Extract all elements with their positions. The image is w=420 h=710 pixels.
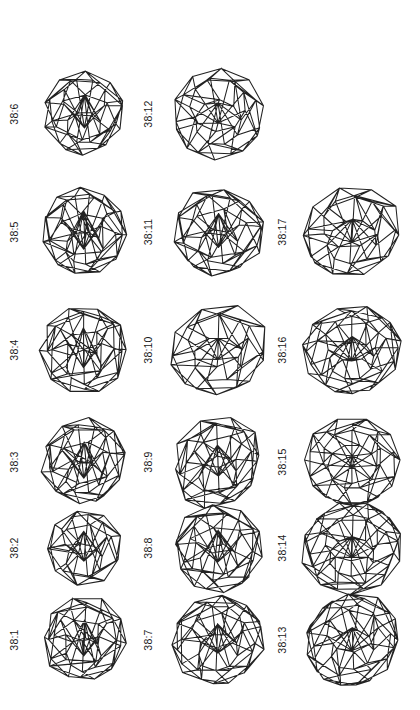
polyhedra-plate: 38:638:1238:538:1138:1738:438:1038:1638:… <box>0 0 420 710</box>
polyhedron-label: 38:15 <box>276 442 288 482</box>
polyhedron-label: 38:12 <box>142 94 154 134</box>
polyhedron-label: 38:5 <box>8 212 20 252</box>
polyhedron-label: 38:13 <box>276 620 288 660</box>
polyhedron-label: 38:16 <box>276 330 288 370</box>
polyhedron-label: 38:11 <box>142 212 154 252</box>
polyhedron-cell: 38:13 <box>282 570 400 710</box>
polyhedron-label: 38:6 <box>8 94 20 134</box>
polyhedron-label: 38:3 <box>8 442 20 482</box>
polyhedron-label: 38:8 <box>142 528 154 568</box>
polyhedron-cell: 38:7 <box>148 570 266 710</box>
polyhedron-label: 38:9 <box>142 442 154 482</box>
polyhedron-wireframe <box>300 572 404 708</box>
polyhedron-label: 38:17 <box>276 212 288 252</box>
polyhedron-cell: 38:1 <box>14 570 132 710</box>
polyhedron-label: 38:4 <box>8 330 20 370</box>
polyhedron-label: 38:10 <box>142 330 154 370</box>
polyhedron-label: 38:14 <box>276 528 288 568</box>
polyhedron-label: 38:2 <box>8 528 20 568</box>
polyhedron-wireframe <box>32 572 136 708</box>
polyhedron-wireframe <box>166 572 270 708</box>
polyhedron-label: 38:1 <box>8 620 20 660</box>
polyhedron-label: 38:7 <box>142 620 154 660</box>
